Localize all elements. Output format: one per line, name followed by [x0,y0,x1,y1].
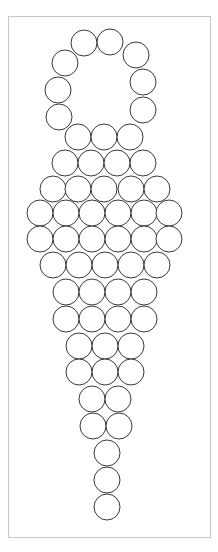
bead-circle [118,176,144,202]
bead-circle [52,150,78,176]
bead-circle [46,104,72,130]
bead-row-6 [40,252,170,278]
bead-row-8 [53,306,157,332]
bead-circle [105,279,131,305]
bead-circle [40,252,66,278]
bead-circle [79,306,105,332]
bead-circle [131,200,157,226]
bead-diagram [0,0,218,552]
bead-row-11 [79,386,131,412]
bead-circle [66,333,92,359]
bead-circle [71,30,97,56]
bead-circle [79,200,105,226]
bead-circle [106,413,132,439]
bead-circle [118,359,144,385]
bead-circle [118,333,144,359]
bead-circle [91,124,117,150]
bead-circle [91,176,117,202]
bead-circle [53,226,79,252]
bead-circle [156,226,182,252]
bead-circle [65,124,91,150]
bead-circle [97,29,123,55]
bead-circle [131,306,157,332]
bead-circle [78,150,104,176]
bead-circle [130,150,156,176]
bead-row-15 [94,494,120,520]
bead-circle [94,467,120,493]
bead-row-14 [94,467,120,493]
bead-circle [131,279,157,305]
bead-circle [105,226,131,252]
bead-circle [66,252,92,278]
bead-circle [79,226,105,252]
bead-circle [130,97,156,123]
bead-circle [92,252,118,278]
bead-circle [118,252,144,278]
bead-circle [27,200,53,226]
bead-group [27,29,182,520]
bead-circle [94,494,120,520]
bead-circle [53,279,79,305]
bead-circle [66,359,92,385]
bead-circle [40,176,66,202]
bead-row-1 [65,124,143,150]
bead-circle [144,252,170,278]
bead-circle [80,413,106,439]
bead-row-13 [94,440,120,466]
bead-row-12 [80,413,132,439]
bead-row-2 [52,150,156,176]
bead-circle [65,176,91,202]
bead-row-5 [27,226,182,252]
bead-circle [45,77,71,103]
bead-row-10 [66,359,144,385]
bead-row-3 [40,176,170,202]
bead-circle [104,150,130,176]
bead-circle [123,42,149,68]
bead-circle [105,200,131,226]
bead-row-7 [53,279,157,305]
bead-circle [117,124,143,150]
bead-row-4 [27,200,182,226]
bead-circle [52,50,78,76]
bead-circle [79,279,105,305]
bead-circle [105,306,131,332]
bead-circle [53,200,79,226]
bead-circle [130,69,156,95]
bead-circle [92,333,118,359]
bead-circle [131,226,157,252]
bead-circle [92,359,118,385]
bead-circle [53,306,79,332]
bead-ring [45,29,156,130]
bead-circle [144,176,170,202]
bead-circle [156,200,182,226]
bead-circle [94,440,120,466]
bead-circle [79,386,105,412]
bead-circle [27,226,53,252]
bead-row-9 [66,333,144,359]
bead-circle [105,386,131,412]
